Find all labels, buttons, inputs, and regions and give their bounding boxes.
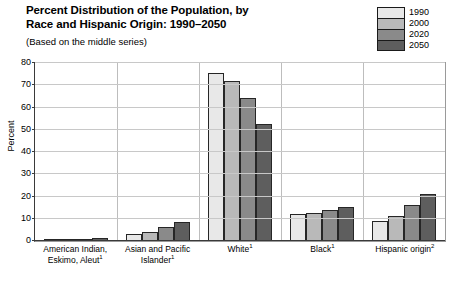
footnote-marker: 1 [249, 243, 252, 249]
footnote-marker: 1 [331, 243, 334, 249]
y-axis-tick-mark [32, 196, 35, 197]
gridline: 10 [35, 218, 445, 219]
bar [240, 98, 256, 241]
gridline: 50 [35, 129, 445, 130]
footnote-marker: 1 [171, 254, 174, 260]
y-axis-tick-label: 60 [21, 102, 31, 112]
bar [174, 222, 190, 241]
x-axis-label-line: Hispanic origin2 [364, 244, 446, 255]
y-axis-tick-mark [32, 62, 35, 63]
x-axis-label-line: Islander1 [116, 255, 198, 266]
bar-group [199, 63, 281, 241]
y-axis-tick-mark [32, 218, 35, 219]
y-axis-tick-label: 80 [21, 57, 31, 67]
x-axis-label-line: Asian and Pacific [116, 244, 198, 255]
x-axis-category-label: Asian and PacificIslander1 [116, 244, 198, 265]
y-axis-tick-label: 50 [21, 124, 31, 134]
y-axis-tick-label: 40 [21, 146, 31, 156]
footnote-marker: 2 [431, 243, 434, 249]
gridline: 80 [35, 62, 445, 63]
bar [256, 124, 272, 241]
bar [208, 73, 224, 241]
plot-area: 01020304050607080 [34, 62, 446, 242]
group-separator [363, 63, 364, 241]
chart-plot-region: Percent 01020304050607080 American India… [0, 0, 458, 281]
y-axis-tick-label: 20 [21, 191, 31, 201]
gridline: 30 [35, 173, 445, 174]
gridline: 70 [35, 84, 445, 85]
group-separator [199, 63, 200, 241]
group-separator [281, 63, 282, 241]
x-axis-label-line: Eskimo, Aleut1 [34, 255, 116, 266]
bar-group [363, 63, 445, 241]
footnote-marker: 1 [99, 254, 102, 260]
bar-group [117, 63, 199, 241]
bar-group [281, 63, 363, 241]
y-axis-tick-mark [32, 151, 35, 152]
x-axis-category-label: White1 [199, 244, 281, 265]
bar [322, 210, 338, 241]
gridline: 0 [35, 240, 445, 241]
x-axis-label-line: Black1 [281, 244, 363, 255]
x-axis-label-line: White1 [199, 244, 281, 255]
gridline: 20 [35, 196, 445, 197]
x-axis-labels: American Indian,Eskimo, Aleut1Asian and … [34, 244, 446, 265]
bar [404, 205, 420, 241]
bar-groups [35, 63, 445, 241]
y-axis-tick-label: 10 [21, 213, 31, 223]
y-axis-tick-mark [32, 129, 35, 130]
x-axis-label-line: American Indian, [34, 244, 116, 255]
y-axis-label: Percent [6, 106, 16, 166]
gridline: 60 [35, 107, 445, 108]
y-axis-tick-label: 30 [21, 168, 31, 178]
y-axis-tick-mark [32, 107, 35, 108]
y-axis-tick-mark [32, 84, 35, 85]
y-axis-tick-mark [32, 240, 35, 241]
bar [158, 227, 174, 241]
x-axis-category-label: Black1 [281, 244, 363, 265]
bar-group [35, 63, 117, 241]
bar [338, 207, 354, 241]
bar [388, 216, 404, 241]
group-separator [117, 63, 118, 241]
gridline: 40 [35, 151, 445, 152]
y-axis-tick-label: 70 [21, 79, 31, 89]
y-axis-tick-mark [32, 173, 35, 174]
x-axis-category-label: American Indian,Eskimo, Aleut1 [34, 244, 116, 265]
x-axis-category-label: Hispanic origin2 [364, 244, 446, 265]
bar [372, 221, 388, 241]
y-axis-tick-label: 0 [26, 235, 31, 245]
